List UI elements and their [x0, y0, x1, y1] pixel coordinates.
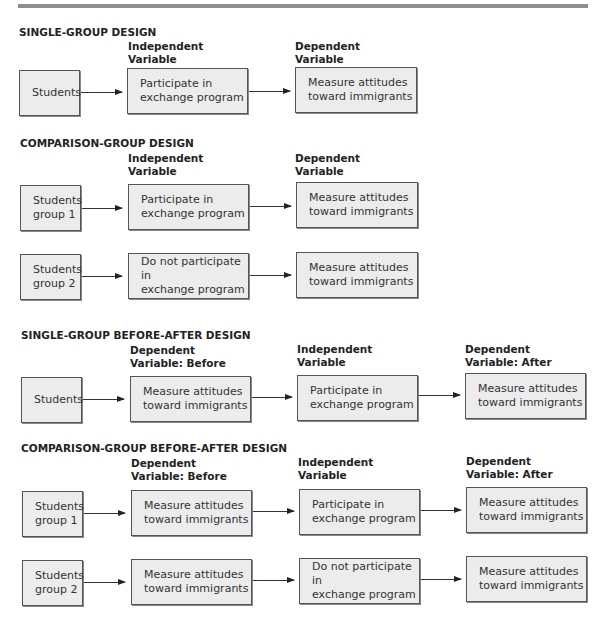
top-rule	[18, 4, 588, 8]
label-dependent-before: Dependent Variable: Before	[130, 344, 226, 370]
box-independent: Participate in exchange program	[127, 68, 248, 114]
arrow	[421, 579, 461, 580]
box-dependent-before: Measure attitudes toward immigrants	[131, 559, 252, 605]
box-independent: Do not participate in exchange program	[299, 558, 420, 604]
arrow	[253, 580, 294, 581]
box-dependent: Measure attitudes toward immigrants	[296, 182, 418, 228]
label-dependent-before: Dependent Variable: Before	[131, 457, 227, 483]
box-dependent-after: Measure attitudes toward immigrants	[466, 487, 587, 533]
label-independent-variable: Independent Variable	[128, 40, 203, 66]
label-independent-variable: Independent Variable	[298, 456, 373, 482]
box-students-group-1: Students group 1	[20, 185, 81, 231]
box-dependent-before: Measure attitudes toward immigrants	[131, 490, 252, 536]
arrow	[82, 276, 122, 277]
label-dependent-variable: Dependent Variable	[295, 152, 360, 178]
box-dependent-before: Measure attitudes toward immigrants	[130, 376, 251, 422]
section-title-comparison-group-before-after: COMPARISON-GROUP BEFORE-AFTER DESIGN	[21, 442, 287, 454]
arrow	[250, 206, 291, 207]
box-dependent: Measure attitudes toward immigrants	[296, 252, 418, 298]
label-independent-variable: Independent Variable	[128, 152, 203, 178]
section-title-single-group-before-after: SINGLE-GROUP BEFORE-AFTER DESIGN	[21, 329, 251, 341]
box-students-group-1: Students group 1	[22, 491, 83, 537]
box-students: Students	[21, 377, 82, 423]
label-dependent-after: Dependent Variable: After	[465, 343, 552, 369]
arrow	[250, 275, 291, 276]
arrow	[83, 399, 124, 400]
arrow	[249, 91, 290, 92]
arrow	[81, 92, 122, 93]
arrow	[84, 582, 125, 583]
box-students-group-2: Students group 2	[22, 560, 83, 606]
box-independent: Do not participate in exchange program	[128, 253, 249, 299]
box-dependent-after: Measure attitudes toward immigrants	[466, 556, 587, 602]
box-dependent: Measure attitudes toward immigrants	[295, 67, 417, 113]
box-students-group-2: Students group 2	[20, 254, 81, 300]
box-students: Students	[19, 70, 80, 116]
arrow	[253, 511, 294, 512]
label-dependent-variable: Dependent Variable	[295, 40, 360, 66]
arrow	[419, 395, 460, 396]
box-independent: Participate in exchange program	[299, 489, 420, 535]
arrow	[252, 397, 292, 398]
section-title-single-group: SINGLE-GROUP DESIGN	[19, 26, 156, 38]
label-independent-variable: Independent Variable	[297, 343, 372, 369]
label-dependent-after: Dependent Variable: After	[466, 455, 553, 481]
box-dependent-after: Measure attitudes toward immigrants	[465, 373, 586, 419]
box-independent: Participate in exchange program	[128, 184, 249, 230]
arrow	[421, 510, 461, 511]
box-independent: Participate in exchange program	[297, 375, 418, 421]
arrow	[82, 208, 122, 209]
section-title-comparison-group: COMPARISON-GROUP DESIGN	[20, 137, 194, 149]
arrow	[84, 513, 125, 514]
